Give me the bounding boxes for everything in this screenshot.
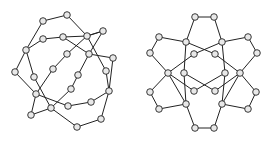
graph-node bbox=[33, 91, 40, 98]
graph-node bbox=[211, 125, 218, 132]
graph-node bbox=[48, 105, 55, 112]
graph-edge bbox=[214, 17, 222, 42]
graph-node bbox=[88, 99, 95, 106]
graph-node bbox=[191, 51, 198, 58]
graph-node bbox=[98, 116, 105, 123]
graph-edge bbox=[77, 119, 101, 127]
graph-figure bbox=[0, 0, 274, 141]
graph-node bbox=[183, 39, 190, 46]
graph-node bbox=[64, 12, 71, 19]
graph-node bbox=[65, 103, 72, 110]
graph-node bbox=[222, 70, 229, 77]
graph-edge bbox=[159, 37, 186, 42]
graph-node bbox=[212, 51, 219, 58]
graph-edge bbox=[150, 73, 168, 92]
graph-edge bbox=[36, 69, 53, 94]
graph-node bbox=[28, 112, 35, 119]
graph-node bbox=[74, 124, 81, 131]
graph-edge bbox=[150, 53, 168, 73]
graph-node bbox=[147, 50, 154, 57]
graph-node bbox=[156, 34, 163, 41]
graph-edge bbox=[26, 50, 34, 77]
graph-edge bbox=[51, 108, 77, 127]
graph-node bbox=[100, 28, 107, 35]
graph-node bbox=[84, 33, 91, 40]
graph-edge bbox=[186, 104, 195, 128]
graph-edge bbox=[186, 42, 215, 54]
graph-node bbox=[165, 70, 172, 77]
graph-edge bbox=[186, 17, 195, 42]
graph-node bbox=[192, 14, 199, 21]
graph-node bbox=[106, 88, 113, 95]
graph-edge bbox=[240, 53, 257, 73]
graph-node bbox=[245, 106, 252, 113]
graph-edge bbox=[168, 73, 186, 104]
graph-node bbox=[191, 88, 198, 95]
graph-node bbox=[40, 18, 47, 25]
graph-node bbox=[192, 125, 199, 132]
graph-node bbox=[181, 70, 188, 77]
graph-edge bbox=[184, 73, 186, 104]
graph-edge bbox=[222, 104, 248, 109]
graph-node bbox=[75, 72, 82, 79]
graph-node bbox=[60, 34, 67, 41]
graph-edge bbox=[222, 42, 225, 73]
graph-edge bbox=[214, 104, 222, 128]
graph-node bbox=[211, 14, 218, 21]
graph-node bbox=[219, 39, 226, 46]
graph-edge bbox=[222, 37, 248, 42]
graph-edge bbox=[168, 54, 194, 73]
graph-node bbox=[219, 101, 226, 108]
graph-edge bbox=[184, 42, 186, 73]
graph-node bbox=[23, 47, 30, 54]
graph-node bbox=[40, 36, 47, 43]
graph-node bbox=[253, 89, 260, 96]
graph-node bbox=[212, 88, 219, 95]
graph-node bbox=[12, 69, 19, 76]
graph-node bbox=[50, 66, 57, 73]
graph-node bbox=[147, 89, 154, 96]
graph-edge bbox=[67, 15, 87, 36]
graph-edge bbox=[109, 58, 113, 91]
graph-node bbox=[254, 50, 261, 57]
graph-node bbox=[156, 106, 163, 113]
graph-node bbox=[68, 86, 75, 93]
graph-edge bbox=[26, 21, 43, 50]
graph-node bbox=[245, 34, 252, 41]
graph-node bbox=[64, 51, 71, 58]
right-graph bbox=[147, 14, 261, 132]
graph-edge bbox=[159, 104, 186, 109]
graph-node bbox=[31, 74, 38, 81]
graph-node bbox=[183, 101, 190, 108]
left-graph bbox=[12, 12, 117, 131]
graph-node bbox=[103, 68, 110, 75]
graph-node bbox=[86, 51, 93, 58]
graph-node bbox=[110, 55, 117, 62]
graph-node bbox=[237, 70, 244, 77]
graph-edge bbox=[215, 54, 240, 73]
graph-canvas bbox=[0, 0, 274, 141]
graph-edge bbox=[168, 73, 194, 91]
